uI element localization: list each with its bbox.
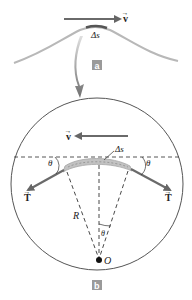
panel-a: v → Δs a <box>14 9 178 98</box>
zoom-curved-arrow <box>74 36 84 98</box>
angle-arc-left <box>55 157 59 174</box>
panel-b: v → Δs T → T → θ θ θ R O b <box>11 98 183 291</box>
angle-arc-right <box>141 157 146 175</box>
tension-arrow-left <box>28 170 64 190</box>
radius-label: R <box>72 210 79 221</box>
center-point <box>96 257 102 263</box>
velocity-vector-arrow-accent: → <box>122 9 129 17</box>
tension-left-vector-accent: → <box>24 188 31 196</box>
arc-label-leader <box>104 151 114 160</box>
panel-tag-b: b <box>94 281 100 291</box>
angle-label-right: θ <box>146 158 151 168</box>
tension-right-vector-accent: → <box>165 188 172 196</box>
arc-length-label: Δs <box>90 30 100 40</box>
center-label: O <box>104 255 111 266</box>
angle-arc-center <box>99 224 111 226</box>
radius-line-left <box>67 172 99 259</box>
angle-label-left: θ <box>48 158 53 168</box>
angle-label-center: θ <box>101 229 105 238</box>
tension-on-string-diagram: v → Δs a v → Δs T → T → θ θ <box>0 0 192 300</box>
velocity-vector-arrow-accent-b: → <box>65 127 72 135</box>
tension-arrow-right <box>131 169 170 190</box>
radius-line-right <box>99 171 128 259</box>
arc-length-label-b: Δs <box>114 144 124 154</box>
